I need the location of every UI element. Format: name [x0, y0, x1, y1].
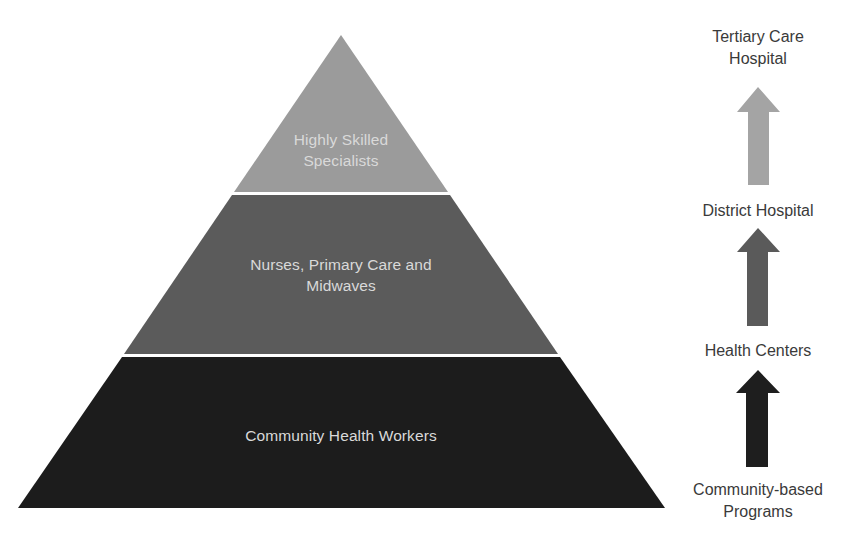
level-label-line: Tertiary Care — [678, 26, 838, 48]
tier-label-nurses: Nurses, Primary Care and Midwaves — [191, 254, 491, 296]
level-label-tertiary-hospital: Tertiary Care Hospital — [678, 26, 838, 70]
tier-label-line: Community Health Workers — [166, 425, 516, 446]
tier-label-specialists: Highly Skilled Specialists — [241, 129, 441, 171]
level-label-line: District Hospital — [668, 200, 848, 222]
tier-label-line: Midwaves — [191, 275, 491, 296]
level-label-district-hospital: District Hospital — [668, 200, 848, 222]
level-label-line: Programs — [668, 501, 848, 523]
level-label-line: Community-based — [668, 479, 848, 501]
level-label-community-programs: Community-based Programs — [668, 479, 848, 523]
arrow-up-icon — [736, 370, 780, 467]
tier-label-line: Highly Skilled — [241, 129, 441, 150]
arrow-up-icon — [737, 87, 780, 185]
level-label-line: Health Centers — [678, 340, 838, 362]
tier-label-line: Specialists — [241, 150, 441, 171]
level-label-line: Hospital — [678, 48, 838, 70]
tier-label-line: Nurses, Primary Care and — [191, 254, 491, 275]
tier-label-community-workers: Community Health Workers — [166, 425, 516, 446]
level-label-health-centers: Health Centers — [678, 340, 838, 362]
arrow-up-icon — [737, 228, 780, 326]
